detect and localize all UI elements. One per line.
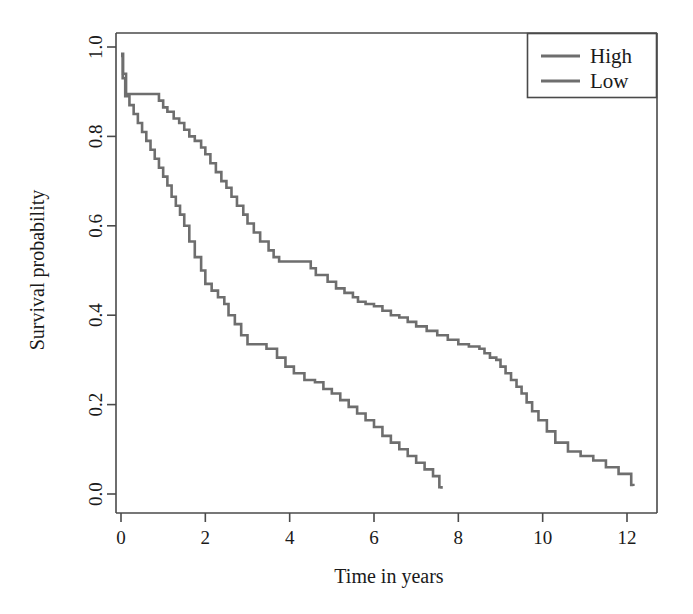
survival-curves [121, 54, 633, 489]
curve-low [121, 56, 441, 489]
x-tick-label-0: 0 [116, 527, 126, 548]
y-tick-label-0.2: 0.2 [85, 393, 106, 417]
chart-canvas: 024681012 0.00.20.40.60.81.0 Time in yea… [0, 0, 693, 614]
x-tick-label-4: 4 [285, 527, 295, 548]
x-tick-label-2: 2 [201, 527, 211, 548]
y-tick-label-0.6: 0.6 [85, 214, 106, 238]
x-tick-label-10: 10 [533, 527, 552, 548]
x-tick-label-6: 6 [369, 527, 379, 548]
curve-high [121, 54, 633, 486]
y-tick-label-1.0: 1.0 [85, 35, 106, 59]
y-axis-title: Survival probability [26, 190, 49, 351]
survival-plot-figure: 024681012 0.00.20.40.60.81.0 Time in yea… [0, 0, 693, 614]
axis-frame [116, 33, 657, 513]
legend-label-low: Low [590, 69, 629, 93]
x-tick-label-12: 12 [618, 527, 637, 548]
y-tick-label-0.4: 0.4 [85, 303, 106, 327]
legend: High Low [528, 34, 657, 98]
y-tick-label-0.8: 0.8 [85, 125, 106, 149]
legend-label-high: High [590, 44, 633, 68]
x-axis-ticks [121, 513, 627, 522]
x-tick-label-8: 8 [454, 527, 464, 548]
x-axis-tick-labels: 024681012 [116, 527, 636, 548]
y-tick-label-0.0: 0.0 [85, 482, 106, 506]
y-axis-ticks [107, 47, 116, 494]
y-axis-tick-labels: 0.00.20.40.60.81.0 [85, 35, 106, 506]
x-axis-title: Time in years [334, 565, 443, 588]
